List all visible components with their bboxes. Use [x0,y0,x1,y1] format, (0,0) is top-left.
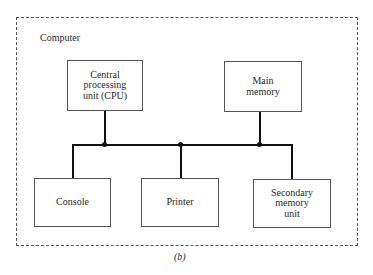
printer-box: Printer [141,178,219,227]
cpu-bus-link [104,111,106,145]
secondary-memory-box: Secondary memory unit [253,179,331,228]
console-bus-link [72,144,74,178]
main-memory-junction-dot [257,142,262,147]
computer-label: Computer [40,32,80,43]
figure-caption: (b) [174,251,186,262]
main-memory-bus-link [259,112,261,145]
cpu-box: Central processing unit (CPU) [67,60,143,111]
main-memory-box: Main memory [224,61,302,112]
secondary-memory-bus-link [291,144,293,179]
printer-junction-dot [178,142,183,147]
console-box: Console [34,178,111,227]
cpu-junction-dot [102,142,107,147]
printer-bus-link [180,144,182,178]
